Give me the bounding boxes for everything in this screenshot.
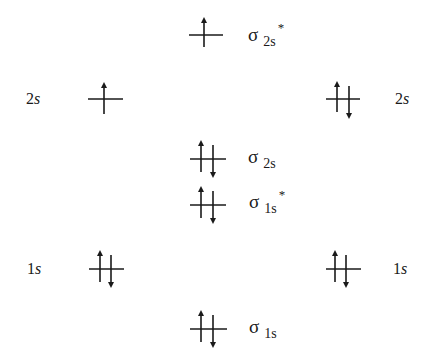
mo-diagram: 2s 2s 1s 1s σ2s* σ2s σ1s* σ1s	[0, 0, 442, 364]
level-sigma-1s	[190, 313, 227, 345]
energy-levels	[0, 0, 442, 364]
level-right-1s	[326, 253, 361, 285]
label-right-2s: 2s	[395, 91, 409, 107]
level-sigma-2s	[190, 143, 226, 175]
label-sigma-2s: σ2s	[248, 147, 278, 166]
label-left-2s: 2s	[26, 91, 40, 107]
label-left-1s: 1s	[27, 261, 41, 277]
label-sigma-1s: σ1s	[249, 317, 279, 336]
sigma-symbol: σ	[249, 191, 259, 212]
sigma-symbol: σ	[248, 24, 258, 45]
level-sigma-2s-star	[189, 20, 223, 47]
level-sigma-1s-star	[190, 189, 226, 221]
level-left-1s	[89, 253, 124, 285]
label-sigma-2s-star: σ2s*	[248, 25, 284, 44]
level-right-2s	[326, 84, 360, 116]
label-sigma-1s-star: σ1s*	[249, 192, 285, 211]
label-right-1s: 1s	[393, 261, 407, 277]
sigma-symbol: σ	[249, 316, 259, 337]
level-left-2s	[88, 85, 123, 114]
sigma-symbol: σ	[248, 146, 258, 167]
